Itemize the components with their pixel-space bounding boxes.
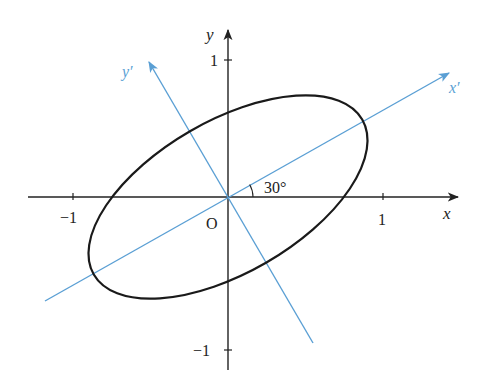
x-tick-label-neg1: −1 (60, 209, 77, 226)
x-axis (28, 193, 458, 200)
x-prime-label: x′ (448, 79, 460, 96)
x-prime-axis (45, 73, 449, 301)
y-tick-label-pos1: 1 (210, 52, 218, 69)
x-axis-label: x (442, 204, 451, 223)
y-prime-axis (149, 62, 313, 343)
angle-label: 30° (264, 179, 286, 196)
y-tick-label-neg1: −1 (193, 342, 210, 359)
y-axis-label: y (204, 25, 214, 44)
y-prime-label: y′ (120, 63, 133, 81)
origin-label: O (206, 215, 218, 232)
x-tick-label-pos1: 1 (378, 211, 386, 228)
rotated-ellipse-diagram: y x O −1 1 1 −1 x′ y′ 30° (0, 0, 486, 390)
angle-arc (250, 185, 253, 198)
